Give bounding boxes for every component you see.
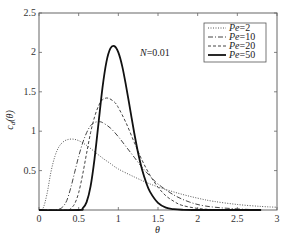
x-tick-label: 0.5 (72, 213, 85, 224)
x-tick-label: 2 (195, 213, 200, 224)
series-line (39, 46, 261, 210)
annotation-n: N=0.01 (139, 47, 170, 58)
x-tick-label: 3 (275, 213, 280, 224)
x-tick-label: 0 (37, 213, 42, 224)
x-tick-label: 1.5 (152, 213, 165, 224)
series-line (39, 139, 277, 210)
legend: Pe=2Pe=10Pe=20Pe=50 (204, 22, 266, 62)
x-tick-label: 1 (116, 213, 121, 224)
y-axis-label: cd(θ) (4, 110, 17, 130)
y-tick-label: 0.5 (24, 165, 37, 176)
y-tick-label: 2 (31, 46, 36, 57)
legend-label: Pe=50 (228, 49, 255, 60)
y-tick-label: 1.5 (24, 86, 37, 97)
chart: 00.511.522.530.511.522.5 N=0.01 Pe=2Pe=1… (0, 0, 285, 241)
y-tick-label: 1 (31, 125, 36, 136)
series-lines (39, 46, 277, 210)
x-axis-label: θ (155, 224, 160, 235)
x-tick-label: 2.5 (231, 213, 244, 224)
series-line (39, 122, 261, 210)
y-tick-label: 2.5 (24, 7, 37, 18)
